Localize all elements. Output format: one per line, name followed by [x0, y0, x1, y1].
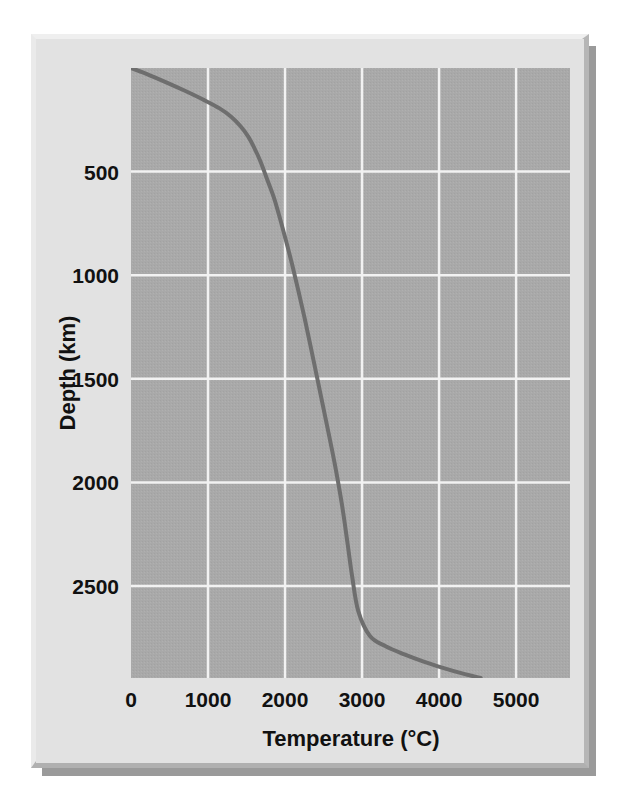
y-tick-label: 2000	[72, 471, 119, 494]
y-tick-label: 1000	[72, 264, 119, 287]
y-axis-title: Depth (km)	[55, 316, 80, 431]
x-tick-label: 4000	[416, 688, 463, 711]
x-axis-title: Temperature (°C)	[262, 726, 439, 751]
x-tick-label: 3000	[339, 688, 386, 711]
figure-root: 010002000300040005000 500100015002000250…	[0, 0, 624, 812]
y-tick-label: 500	[84, 161, 119, 184]
y-tick-label: 2500	[72, 575, 119, 598]
x-tick-label: 2000	[262, 688, 309, 711]
x-tick-label: 5000	[493, 688, 540, 711]
x-tick-labels: 010002000300040005000	[125, 688, 539, 711]
geotherm-chart: 010002000300040005000 500100015002000250…	[31, 34, 589, 768]
x-tick-label: 0	[125, 688, 137, 711]
x-tick-label: 1000	[185, 688, 232, 711]
